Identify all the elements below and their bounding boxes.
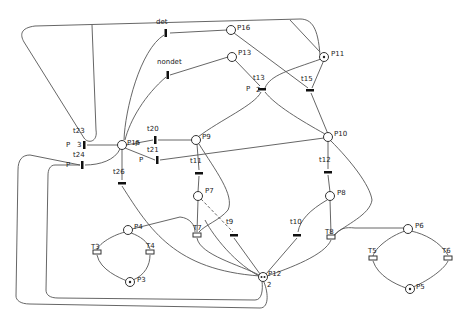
arc xyxy=(235,60,260,86)
token xyxy=(129,281,131,283)
transition-t7[interactable] xyxy=(193,233,201,237)
transition-t9[interactable] xyxy=(230,234,238,237)
token xyxy=(261,276,263,278)
arc xyxy=(97,255,127,281)
transition-t5[interactable] xyxy=(369,256,377,260)
label-t8: T8 xyxy=(324,228,334,236)
arc xyxy=(334,228,404,236)
petri-net-canvas: P16 P13 P11 P15 P9 P10 P7 P8 P4 P3 P12 P… xyxy=(0,0,466,323)
label-p10: P10 xyxy=(334,130,347,138)
label-p13: P13 xyxy=(238,49,251,57)
arc xyxy=(373,231,405,256)
arc xyxy=(16,155,267,308)
arc xyxy=(22,19,320,141)
arc xyxy=(97,232,125,250)
annotation: P xyxy=(135,140,139,148)
label-t5: T5 xyxy=(367,247,377,255)
label-nondet: nondet xyxy=(157,58,182,66)
annotation: 2 xyxy=(267,281,271,289)
arc xyxy=(331,141,372,235)
annotation: P xyxy=(139,156,143,164)
transition-t23[interactable] xyxy=(83,141,86,149)
label-p4: P4 xyxy=(134,223,143,231)
token xyxy=(409,288,411,290)
label-p11: P11 xyxy=(331,50,344,58)
annotation: 3 xyxy=(77,141,81,149)
place-p7[interactable] xyxy=(194,192,203,201)
label-p16: P16 xyxy=(237,24,251,32)
annotation: P xyxy=(66,141,70,149)
arc xyxy=(298,200,327,232)
transition-nondet[interactable] xyxy=(167,71,170,79)
place-p16[interactable] xyxy=(227,26,236,35)
label-t12: t12 xyxy=(319,156,331,164)
label-p7: P7 xyxy=(205,187,214,195)
label-p3: P3 xyxy=(137,276,146,284)
arc xyxy=(85,149,120,165)
label-t26: t26 xyxy=(113,168,125,176)
transition-t12[interactable] xyxy=(324,171,332,174)
arc xyxy=(373,261,406,288)
label-t9: t9 xyxy=(226,218,233,226)
place-p6[interactable] xyxy=(404,225,413,234)
label-p12: P12 xyxy=(268,270,281,278)
arc xyxy=(198,176,199,192)
arc xyxy=(197,238,259,275)
annotation: 2 xyxy=(256,86,260,94)
label-t23: t23 xyxy=(73,127,85,135)
transition-t24[interactable] xyxy=(81,161,84,169)
transition-det[interactable] xyxy=(165,29,168,37)
arc xyxy=(198,92,261,137)
label-t20: t20 xyxy=(147,125,159,133)
label-t10: t10 xyxy=(290,218,302,226)
transition-t26[interactable] xyxy=(118,182,126,185)
label-t7: T7 xyxy=(192,224,202,232)
place-p10[interactable] xyxy=(324,133,333,142)
label-t15: t15 xyxy=(301,75,313,83)
transition-t6[interactable] xyxy=(444,256,452,260)
transition-t20[interactable] xyxy=(154,136,157,144)
arc xyxy=(125,77,166,140)
arc xyxy=(266,238,297,274)
arc xyxy=(290,20,320,52)
label-t4: T4 xyxy=(145,242,155,250)
token xyxy=(323,56,325,58)
arc xyxy=(170,30,227,33)
annotation: P xyxy=(246,85,250,93)
arc xyxy=(199,144,229,232)
label-p6: P6 xyxy=(415,222,424,230)
label-t13: t13 xyxy=(253,74,265,82)
labels: P16 P13 P11 P15 P9 P10 P7 P8 P4 P3 P12 P… xyxy=(66,18,451,291)
transition-t21[interactable] xyxy=(156,156,159,164)
label-p9: P9 xyxy=(202,133,211,141)
arc xyxy=(46,165,262,300)
transition-t4[interactable] xyxy=(146,250,154,254)
token xyxy=(264,276,266,278)
arc xyxy=(328,175,330,192)
place-p13[interactable] xyxy=(228,53,237,62)
arc xyxy=(312,60,324,88)
place-p15[interactable] xyxy=(118,141,127,150)
annotation: P xyxy=(66,161,70,169)
label-p5: P5 xyxy=(416,283,425,291)
label-t6: T6 xyxy=(441,247,451,255)
transition-t10[interactable] xyxy=(293,234,301,237)
arc xyxy=(160,138,324,160)
label-t11: t11 xyxy=(190,157,202,165)
label-det: det xyxy=(156,18,168,26)
arc xyxy=(265,59,321,88)
arcs xyxy=(16,19,448,308)
label-t24: t24 xyxy=(73,151,85,159)
transition-t11[interactable] xyxy=(195,172,203,175)
label-t21: t21 xyxy=(147,146,159,154)
label-p8: P8 xyxy=(337,189,346,197)
arc xyxy=(265,92,325,134)
transition-t15[interactable] xyxy=(306,89,314,92)
place-p9[interactable] xyxy=(192,136,201,145)
label-t3: T3 xyxy=(90,243,100,251)
place-p8[interactable] xyxy=(326,192,335,201)
place-p4[interactable] xyxy=(124,226,133,235)
